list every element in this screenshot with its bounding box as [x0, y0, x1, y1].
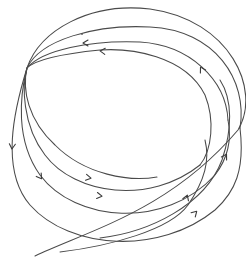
arrow-bottom-mid-2-icon [97, 192, 103, 199]
trajectory-diagram [0, 0, 246, 262]
arrow-bottom-mid-1-icon [86, 174, 92, 181]
loop-2-curve [21, 27, 241, 214]
orbit-curves [12, 8, 246, 256]
arrow-right-lower-2-icon [191, 209, 199, 217]
arrow-top-inner-2-icon [100, 48, 106, 54]
small-tick-mark [81, 33, 83, 35]
loop-4-inner-curve [25, 50, 211, 179]
annotation-marks [81, 33, 83, 35]
loop-3-curve [24, 42, 228, 191]
cross-arc-a-curve [60, 140, 207, 252]
